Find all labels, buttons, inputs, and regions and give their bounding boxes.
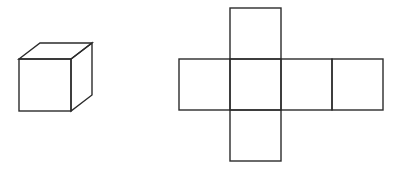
net-square-right bbox=[281, 59, 332, 110]
net-square-center bbox=[230, 59, 281, 110]
net-square-bottom bbox=[230, 110, 281, 161]
net-square-left bbox=[179, 59, 230, 110]
cube-side-face bbox=[71, 43, 92, 111]
cube-net bbox=[179, 8, 383, 161]
cube-3d bbox=[19, 43, 92, 111]
net-square-far-right bbox=[332, 59, 383, 110]
cube-and-net-diagram bbox=[0, 0, 402, 170]
net-square-top bbox=[230, 8, 281, 59]
cube-front-face bbox=[19, 59, 71, 111]
